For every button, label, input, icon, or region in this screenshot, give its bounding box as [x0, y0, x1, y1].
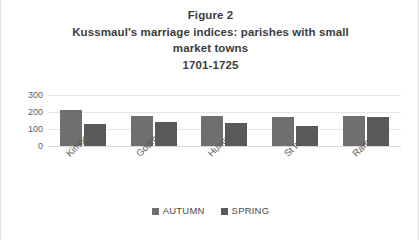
title-line-1: Figure 2: [1, 7, 419, 24]
x-axis-label-cell: Hunting...: [189, 147, 260, 197]
y-axis-tick-label: 300: [28, 91, 43, 100]
x-axis-labels: KimboltonGodman...Hunting...St IvesRamse…: [48, 147, 401, 197]
legend-label: SPRING: [232, 206, 270, 216]
x-axis-label-cell: Kimbolton: [48, 147, 119, 197]
chart-legend: AUTUMN SPRING: [1, 206, 419, 216]
y-axis-tick-label: 100: [28, 125, 43, 134]
y-axis-tick-label: 200: [28, 108, 43, 117]
legend-item-autumn: AUTUMN: [152, 206, 205, 216]
title-line-2: Kussmaul's marriage indices: parishes wi…: [1, 24, 419, 41]
y-axis-tick-label: 0: [38, 142, 43, 151]
x-axis-label-cell: St Ives: [260, 147, 331, 197]
x-axis-label-cell: Ramsey: [330, 147, 401, 197]
x-axis-label-cell: Godman...: [119, 147, 190, 197]
legend-swatch-icon: [221, 208, 228, 215]
chart-title: Figure 2 Kussmaul's marriage indices: pa…: [1, 7, 419, 73]
legend-label: AUTUMN: [163, 206, 205, 216]
legend-swatch-icon: [152, 208, 159, 215]
legend-item-spring: SPRING: [221, 206, 270, 216]
title-line-4: 1701-1725: [1, 57, 419, 74]
chart-figure: Figure 2 Kussmaul's marriage indices: pa…: [0, 0, 419, 240]
title-line-3: market towns: [1, 40, 419, 57]
